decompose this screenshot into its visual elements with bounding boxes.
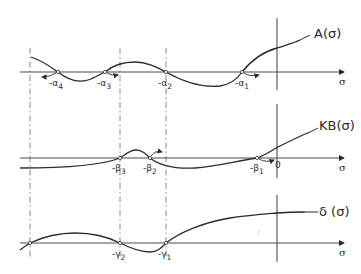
root-label-gamma1: -γ1 — [158, 249, 171, 262]
root-label-prefix: -α — [49, 78, 58, 88]
root-label-beta2: -β2 — [143, 163, 157, 176]
root-label-alpha4: -α4 — [49, 78, 63, 91]
root-label-sub: 3 — [121, 167, 126, 176]
axis-label-sigma-KB: σ — [339, 162, 346, 173]
root-beta1 — [255, 156, 258, 159]
root-locus-diagram — [0, 0, 361, 274]
root-label-prefix: -α — [97, 78, 106, 88]
root-label-prefix: -γ — [112, 249, 121, 259]
root-beta3 — [118, 156, 121, 159]
label-A-sigma: A(σ) — [314, 26, 341, 41]
leader-KB — [310, 128, 318, 132]
axis-label-sigma-delta: σ — [339, 247, 346, 258]
root-label-beta1: -β1 — [250, 163, 264, 176]
root-label-sub: 2 — [167, 82, 172, 91]
root-label-sub: 2 — [121, 253, 126, 262]
root-label-alpha3: -α3 — [97, 78, 111, 91]
root-label-gamma2: -γ2 — [112, 249, 125, 262]
arrow-alpha4 — [42, 73, 56, 77]
label-KB-sigma: KB(σ) — [319, 118, 355, 133]
root-label-prefix: -γ — [158, 249, 167, 259]
root-label-alpha2: -α2 — [158, 78, 172, 91]
curve-KB — [20, 132, 310, 168]
root-label-alpha1: -α1 — [235, 78, 249, 91]
root-alpha3 — [103, 70, 106, 73]
root-gamma2 — [118, 241, 121, 244]
root-label-prefix: -α — [158, 78, 167, 88]
arrow-alpha1 — [244, 73, 259, 76]
label-delta-sigma: δ (σ) — [319, 204, 349, 219]
root-label-sub: 3 — [106, 82, 111, 91]
root-label-prefix: -β — [112, 163, 121, 173]
root-label-sub: 4 — [58, 82, 63, 91]
root-label-sub: 1 — [244, 82, 249, 91]
root-label-beta3: -β3 — [112, 163, 126, 176]
root-label-prefix: -β — [250, 163, 259, 173]
origin-label: 0 — [275, 160, 281, 170]
root-gamma-left — [28, 241, 31, 244]
root-label-sub: 1 — [259, 167, 264, 176]
curve-delta — [20, 212, 305, 252]
root-label-prefix: -α — [235, 78, 244, 88]
root-label-prefix: -β — [143, 163, 152, 173]
root-label-sub: 2 — [152, 167, 157, 176]
root-beta2 — [148, 156, 151, 159]
stray-mark — [258, 230, 259, 236]
root-label-sub: 1 — [167, 253, 172, 262]
arrow-beta1 — [259, 159, 274, 161]
leader-A — [300, 35, 310, 40]
arrow-alpha3 — [107, 73, 118, 75]
root-alpha4 — [56, 70, 59, 73]
axis-label-sigma-A: σ — [339, 76, 346, 87]
root-gamma1 — [164, 241, 167, 244]
root-alpha1 — [240, 70, 243, 73]
arrow-beta2 — [151, 152, 162, 157]
root-alpha2 — [164, 70, 167, 73]
